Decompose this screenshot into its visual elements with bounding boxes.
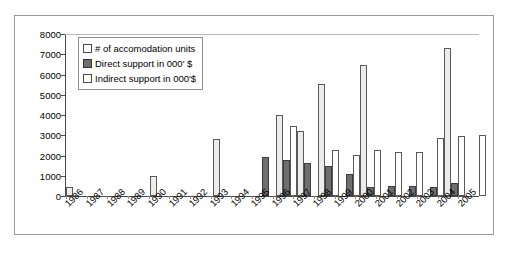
bar-group: [381, 34, 402, 196]
bar-group: [276, 34, 297, 196]
y-axis-tick-label: 6000: [40, 69, 61, 80]
y-axis-tick-mark: [61, 156, 65, 157]
bar-group: [339, 34, 360, 196]
bar-group: [444, 34, 465, 196]
legend-swatch-icon: [83, 59, 92, 68]
x-axis-label-cell: 1997: [293, 198, 314, 248]
y-axis-tick-label: 5000: [40, 89, 61, 100]
x-axis-label-cell: 2005: [458, 198, 479, 248]
x-axis-label-cell: 1989: [128, 198, 149, 248]
bar-group: [423, 34, 444, 196]
y-axis-tick-mark: [61, 176, 65, 177]
x-axis-label-cell: 1998: [314, 198, 335, 248]
bar: [318, 84, 325, 196]
legend-item[interactable]: Direct support in 000' $: [83, 56, 196, 71]
x-axis-label-cell: 1996: [273, 198, 294, 248]
x-axis-label-cell: 1991: [169, 198, 190, 248]
bar-group: [318, 34, 339, 196]
bar: [395, 152, 402, 196]
bar-group: [213, 34, 234, 196]
y-axis-tick-label: 2000: [40, 150, 61, 161]
bar-group: [402, 34, 423, 196]
bar: [479, 135, 486, 196]
x-axis-label-cell: 1990: [149, 198, 170, 248]
y-axis-tick-mark: [61, 34, 65, 35]
bar: [213, 139, 220, 196]
x-axis-label-cell: 1995: [252, 198, 273, 248]
x-axis-label-cell: 1987: [87, 198, 108, 248]
chart-legend: # of accomodation unitsDirect support in…: [78, 37, 203, 90]
bar: [444, 48, 451, 196]
chart-frame: 010002000300040005000600070008000 198619…: [14, 15, 494, 235]
y-axis-tick-label: 8000: [40, 29, 61, 40]
y-axis-tick-mark: [61, 135, 65, 136]
x-axis-label-cell: 1986: [66, 198, 87, 248]
bar: [437, 138, 444, 196]
legend-item-label: Direct support in 000' $: [95, 58, 192, 69]
x-axis-label-cell: 1992: [190, 198, 211, 248]
bar-group: [297, 34, 318, 196]
x-axis-label-cell: 2003: [417, 198, 438, 248]
legend-swatch-icon: [83, 44, 92, 53]
x-axis-label-cell: 1999: [335, 198, 356, 248]
bar: [276, 115, 283, 196]
x-axis-label-cell: 2002: [397, 198, 418, 248]
y-axis-tick-mark: [61, 54, 65, 55]
bar: [360, 65, 367, 196]
x-axis-label-cell: 2000: [355, 198, 376, 248]
y-axis-tick-label: 7000: [40, 49, 61, 60]
legend-item[interactable]: Indirect support in 000'$: [83, 71, 196, 86]
bar: [353, 155, 360, 197]
legend-item-label: # of accomodation units: [95, 43, 195, 54]
x-axis-label-cell: 1988: [107, 198, 128, 248]
bar: [332, 150, 339, 196]
bar: [290, 126, 297, 196]
y-axis-tick-label: 4000: [40, 110, 61, 121]
legend-item[interactable]: # of accomodation units: [83, 41, 196, 56]
bar-group: [360, 34, 381, 196]
legend-item-label: Indirect support in 000'$: [95, 73, 196, 84]
y-axis-tick-mark: [61, 75, 65, 76]
bar: [416, 152, 423, 196]
x-axis-label-cell: 1993: [211, 198, 232, 248]
bar-group: [465, 34, 486, 196]
bar: [374, 150, 381, 196]
x-axis-label-cell: 1994: [231, 198, 252, 248]
y-axis-tick-label: 1000: [40, 170, 61, 181]
y-axis-tick-mark: [61, 115, 65, 116]
y-axis-tick-mark: [61, 95, 65, 96]
bar: [297, 131, 304, 196]
y-axis-tick-label: 3000: [40, 130, 61, 141]
x-axis-label-cell: 2001: [376, 198, 397, 248]
legend-swatch-icon: [83, 74, 92, 83]
bar-group: [255, 34, 276, 196]
bar: [458, 136, 465, 196]
y-axis-tick-mark: [61, 196, 65, 197]
x-axis-label-cell: 2004: [438, 198, 459, 248]
x-axis-labels: 1986198719881989199019911992199319941995…: [66, 198, 479, 248]
bar-group: [234, 34, 255, 196]
